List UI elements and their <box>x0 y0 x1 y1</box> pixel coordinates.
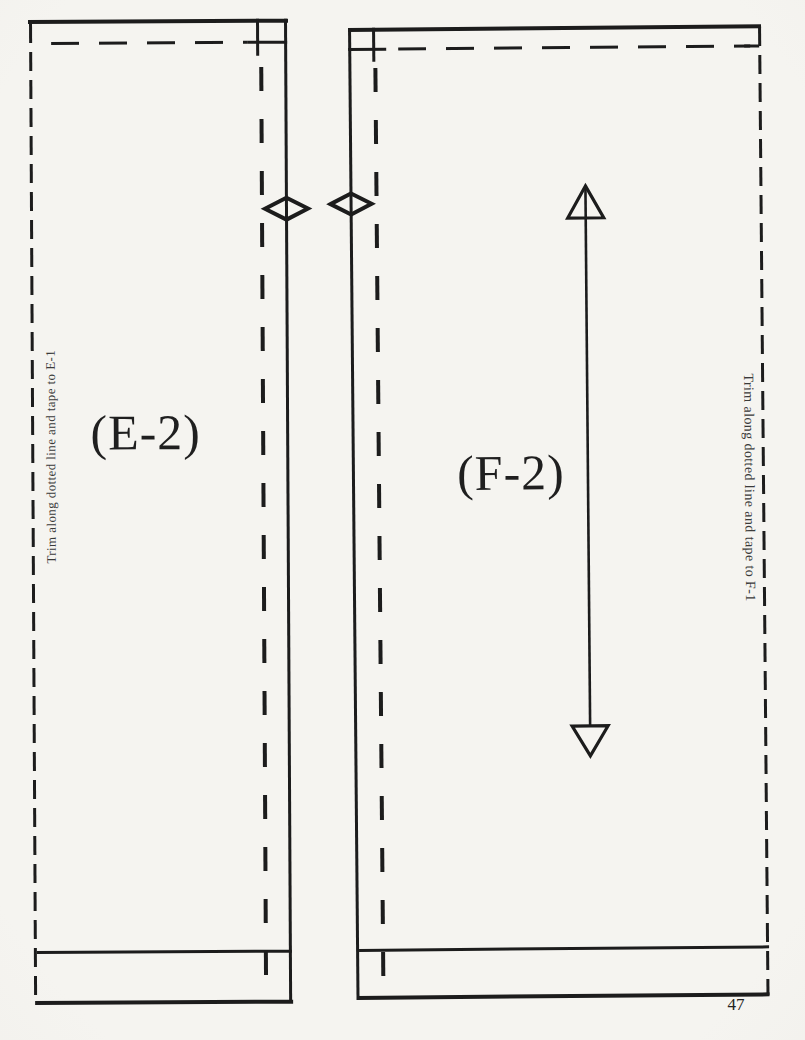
e2-right-cut-line <box>284 19 292 1002</box>
e2-trim-instruction: Trim along dotted line and tape to E-1 <box>40 352 63 562</box>
f2-corner-tick-horizontal <box>348 47 386 51</box>
f2-piece-label: (F-2) <box>431 436 592 509</box>
f2-top-seam-dashed-line <box>398 44 750 51</box>
e2-bottom-cut-line <box>35 1000 293 1005</box>
f2-bottom-cut-line <box>357 992 769 999</box>
pattern-piece-f2: (F-2) Trim along dotted line and tape to… <box>345 20 772 1002</box>
pattern-sheet-page: (E-2) Trim along dotted line and tape to… <box>0 0 805 1040</box>
e2-corner-tick-horizontal <box>247 40 287 44</box>
f2-left-cut-line <box>348 28 359 1000</box>
f2-trim-instruction: Trim along dotted line and tape to F-1 <box>737 373 761 601</box>
e2-hem-line <box>37 950 292 954</box>
f2-corner-tick-vertical <box>372 28 375 62</box>
e2-top-seam-dashed-line <box>51 40 247 45</box>
f2-corner-hook-horizontal <box>744 44 759 48</box>
e2-left-trim-dashed-line <box>29 24 37 1003</box>
f2-top-cut-line <box>348 24 761 31</box>
e2-piece-label: (E-2) <box>68 396 223 469</box>
diamond-notch-icon <box>328 191 373 217</box>
f2-hem-line <box>359 945 769 952</box>
diamond-notch-icon <box>262 195 311 223</box>
f2-left-seam-dashed-line <box>373 68 385 1002</box>
e2-top-cut-line <box>28 19 288 24</box>
page-number: 47 <box>718 995 754 1015</box>
pattern-piece-e2: (E-2) Trim along dotted line and tape to… <box>28 19 295 1005</box>
e2-corner-tick-vertical <box>256 19 259 56</box>
